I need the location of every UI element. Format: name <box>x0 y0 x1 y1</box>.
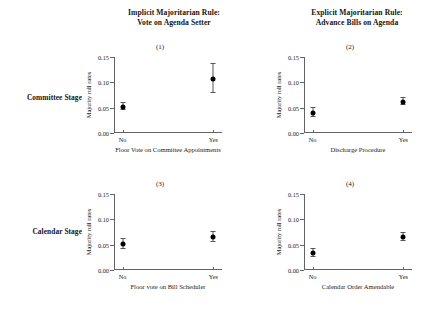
x-tick-label-4-yes: Yes <box>399 273 408 280</box>
x-tick-label-1-yes: Yes <box>209 136 218 143</box>
y-axis-label-2: Majority roll rates <box>275 72 282 119</box>
x-axis-1 <box>114 132 222 133</box>
x-tick-label-3-no: No <box>119 273 127 280</box>
column-title-implicit: Implicit Majoritarian Rule: Vote on Agen… <box>108 8 240 28</box>
y-tick-label-1-3: 0.15 <box>98 54 109 61</box>
y-tick-label-4-0: 0.00 <box>288 267 299 274</box>
plot-area-3: 0.000.050.100.15Majority roll ratesNoYes… <box>114 194 222 270</box>
row-label-calendar-stage: Calendar Stage <box>6 227 82 236</box>
plot-area-1: 0.000.050.100.15Majority roll ratesNoYes… <box>114 57 222 133</box>
row-label-committee-stage: Committee Stage <box>6 93 82 102</box>
x-axis-cap-right-2 <box>403 130 404 133</box>
data-point-1-yes <box>211 76 216 81</box>
y-tick-1-3 <box>110 57 114 58</box>
error-cap-lower-4-no <box>310 256 315 257</box>
x-axis-cap-left-2 <box>313 130 314 133</box>
y-tick-3-1 <box>110 245 114 246</box>
panel-4: (4)0.000.050.100.15Majority roll ratesNo… <box>272 180 428 305</box>
y-tick-3-3 <box>110 194 114 195</box>
y-tick-label-2-1: 0.05 <box>288 104 299 111</box>
panel-2: (2)0.000.050.100.15Majority roll ratesNo… <box>272 43 428 168</box>
column-title-implicit-line2: Vote on Agenda Setter <box>108 18 240 28</box>
y-axis-4 <box>304 194 305 270</box>
y-tick-2-3 <box>300 57 304 58</box>
panel-number-1: (1) <box>82 43 238 51</box>
error-cap-lower-1-no <box>120 109 125 110</box>
y-axis-3 <box>114 194 115 270</box>
y-tick-label-3-1: 0.05 <box>98 241 109 248</box>
error-cap-lower-4-yes <box>401 240 406 241</box>
y-tick-label-4-3: 0.15 <box>288 191 299 198</box>
column-title-implicit-line1: Implicit Majoritarian Rule: <box>128 8 220 17</box>
y-tick-label-3-2: 0.10 <box>98 216 109 223</box>
data-point-4-no <box>310 251 315 256</box>
error-cap-lower-2-no <box>310 116 315 117</box>
error-cap-lower-3-no <box>120 248 125 249</box>
y-axis-1 <box>114 57 115 133</box>
y-tick-label-1-1: 0.05 <box>98 104 109 111</box>
error-cap-upper-3-yes <box>211 231 216 232</box>
error-cap-upper-2-no <box>310 107 315 108</box>
figure-panel-grid: Implicit Majoritarian Rule: Vote on Agen… <box>0 0 440 318</box>
column-title-explicit-line2: Advance Bills on Agenda <box>282 18 432 28</box>
x-axis-cap-left-1 <box>123 130 124 133</box>
y-tick-2-1 <box>300 108 304 109</box>
y-tick-2-0 <box>300 133 304 134</box>
y-tick-3-2 <box>110 219 114 220</box>
y-tick-label-3-3: 0.15 <box>98 191 109 198</box>
y-tick-label-3-0: 0.00 <box>98 267 109 274</box>
data-point-3-yes <box>211 234 216 239</box>
y-tick-2-2 <box>300 82 304 83</box>
plot-area-4: 0.000.050.100.15Majority roll ratesNoYes… <box>304 194 412 270</box>
y-tick-label-2-3: 0.15 <box>288 54 299 61</box>
data-point-1-no <box>120 104 125 109</box>
x-tick-label-2-yes: Yes <box>399 136 408 143</box>
panel-1: (1)0.000.050.100.15Majority roll ratesNo… <box>82 43 238 168</box>
error-cap-upper-4-yes <box>401 232 406 233</box>
error-cap-lower-2-yes <box>401 104 406 105</box>
x-axis-label-4: Calendar Order Amendable <box>322 283 395 290</box>
x-axis-cap-left-4 <box>313 267 314 270</box>
data-point-2-yes <box>401 99 406 104</box>
y-tick-4-2 <box>300 219 304 220</box>
panel-number-2: (2) <box>272 43 428 51</box>
y-tick-1-0 <box>110 133 114 134</box>
error-cap-lower-1-yes <box>211 92 216 93</box>
x-axis-4 <box>304 269 412 270</box>
data-point-3-no <box>120 241 125 246</box>
y-axis-2 <box>304 57 305 133</box>
x-tick-label-1-no: No <box>119 136 127 143</box>
x-axis-cap-left-3 <box>123 267 124 270</box>
error-cap-upper-1-yes <box>211 63 216 64</box>
y-tick-4-0 <box>300 270 304 271</box>
y-axis-label-1: Majority roll rates <box>85 72 92 119</box>
x-axis-label-2: Discharge Procedure <box>331 146 386 153</box>
x-axis-label-3: Floor vote on Bill Scheduler <box>130 283 205 290</box>
x-axis-3 <box>114 269 222 270</box>
column-title-explicit-line1: Explicit Majoritarian Rule: <box>311 8 402 17</box>
panel-number-4: (4) <box>272 180 428 188</box>
y-tick-label-4-1: 0.05 <box>288 241 299 248</box>
y-tick-label-2-0: 0.00 <box>288 130 299 137</box>
data-point-2-no <box>310 110 315 115</box>
y-tick-4-3 <box>300 194 304 195</box>
y-tick-1-1 <box>110 108 114 109</box>
error-cap-upper-1-no <box>120 102 125 103</box>
panel-3: (3)0.000.050.100.15Majority roll ratesNo… <box>82 180 238 305</box>
error-cap-upper-3-no <box>120 238 125 239</box>
y-axis-label-3: Majority roll rates <box>85 209 92 256</box>
plot-area-2: 0.000.050.100.15Majority roll ratesNoYes… <box>304 57 412 133</box>
panel-number-3: (3) <box>82 180 238 188</box>
error-cap-upper-2-yes <box>401 97 406 98</box>
y-tick-label-1-0: 0.00 <box>98 130 109 137</box>
x-axis-label-1: Floor Vote on Committee Appointments <box>115 146 221 153</box>
column-title-explicit: Explicit Majoritarian Rule: Advance Bill… <box>282 8 432 28</box>
x-axis-cap-right-1 <box>213 130 214 133</box>
x-axis-cap-right-3 <box>213 267 214 270</box>
x-tick-label-3-yes: Yes <box>209 273 218 280</box>
y-tick-4-1 <box>300 245 304 246</box>
y-tick-label-4-2: 0.10 <box>288 216 299 223</box>
error-cap-lower-3-yes <box>211 241 216 242</box>
error-cap-upper-4-no <box>310 248 315 249</box>
y-tick-3-0 <box>110 270 114 271</box>
